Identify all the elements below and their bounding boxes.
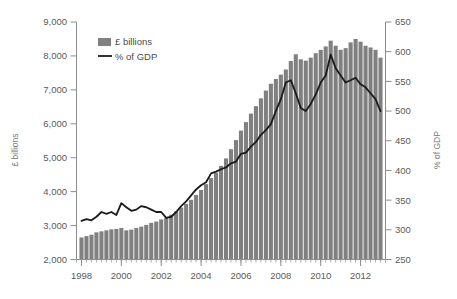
bar — [134, 228, 138, 260]
left-tick-label: 5,000 — [43, 152, 67, 163]
bar — [94, 232, 98, 259]
bar — [378, 58, 382, 260]
bar — [189, 200, 193, 260]
chart-container: 2,0003,0004,0005,0006,0007,0008,0009,000… — [0, 0, 457, 299]
x-tick-label: 2012 — [350, 270, 371, 281]
chart-background — [0, 0, 457, 299]
bar — [204, 184, 208, 259]
right-tick-label: 400 — [395, 165, 411, 176]
double-axis-bar-line-chart: 2,0003,0004,0005,0006,0007,0008,0009,000… — [0, 0, 457, 299]
x-tick-label: 1998 — [71, 270, 92, 281]
bar — [373, 50, 377, 260]
bar — [314, 53, 318, 259]
right-tick-label: 450 — [395, 135, 411, 146]
right-axis-title: % of GDP — [432, 131, 442, 169]
bar — [144, 225, 148, 260]
bar — [244, 122, 248, 259]
bar — [119, 228, 123, 260]
bar — [114, 229, 118, 260]
bar — [84, 236, 88, 259]
bar — [289, 61, 293, 259]
bar — [89, 235, 93, 260]
bar — [149, 223, 153, 260]
bar — [339, 50, 343, 260]
x-tick-label: 2000 — [111, 270, 132, 281]
right-tick-label: 500 — [395, 105, 411, 116]
right-tick-label: 300 — [395, 224, 411, 235]
x-tick-label: 2010 — [310, 270, 331, 281]
left-tick-label: 8,000 — [43, 50, 67, 61]
bar — [229, 149, 233, 259]
bar — [184, 204, 188, 260]
right-tick-label: 350 — [395, 195, 411, 206]
bar — [334, 46, 338, 260]
bar — [284, 70, 288, 260]
left-tick-label: 2,000 — [43, 254, 67, 265]
right-tick-label: 250 — [395, 254, 411, 265]
bar — [104, 230, 108, 259]
bar — [364, 46, 368, 260]
bar — [209, 178, 213, 259]
bar — [239, 131, 243, 260]
bar — [159, 219, 163, 259]
x-tick-label: 2008 — [270, 270, 291, 281]
bar — [264, 91, 268, 260]
bar — [224, 158, 228, 259]
bar — [124, 230, 128, 259]
legend-swatch-bar — [98, 38, 111, 46]
bar — [304, 61, 308, 260]
bar — [359, 42, 363, 260]
bar — [129, 230, 133, 260]
bar — [99, 231, 103, 259]
bar — [329, 41, 333, 260]
bar — [169, 215, 173, 260]
right-tick-label: 550 — [395, 76, 411, 87]
bar — [269, 84, 273, 260]
bar — [214, 173, 218, 260]
bar — [354, 39, 358, 260]
bar — [164, 218, 168, 260]
left-axis-title: £ billions — [10, 133, 20, 166]
left-tick-label: 9,000 — [43, 16, 67, 27]
left-tick-label: 6,000 — [43, 118, 67, 129]
x-tick-label: 2006 — [230, 270, 251, 281]
bar — [109, 229, 113, 259]
right-tick-label: 650 — [395, 16, 411, 27]
bar — [259, 98, 263, 259]
left-tick-label: 7,000 — [43, 84, 67, 95]
bar — [299, 59, 303, 259]
legend-label-percent-of-gdp: % of GDP — [115, 51, 157, 62]
x-tick-label: 2002 — [151, 270, 172, 281]
bar — [139, 227, 143, 260]
bar — [199, 190, 203, 260]
x-tick-label: 2004 — [191, 270, 212, 281]
bar — [219, 166, 223, 260]
legend-label-gbp-billions: £ billions — [115, 36, 152, 47]
left-tick-label: 4,000 — [43, 186, 67, 197]
right-tick-label: 600 — [395, 46, 411, 57]
bar — [369, 47, 373, 259]
bar — [309, 58, 313, 260]
left-tick-label: 3,000 — [43, 220, 67, 231]
bar — [349, 42, 353, 259]
bar — [194, 195, 198, 259]
bar — [174, 211, 178, 259]
bar — [249, 114, 253, 260]
bar — [294, 54, 298, 259]
bar — [154, 222, 158, 260]
bar — [254, 106, 258, 259]
bar — [179, 208, 183, 260]
bar — [79, 237, 83, 259]
